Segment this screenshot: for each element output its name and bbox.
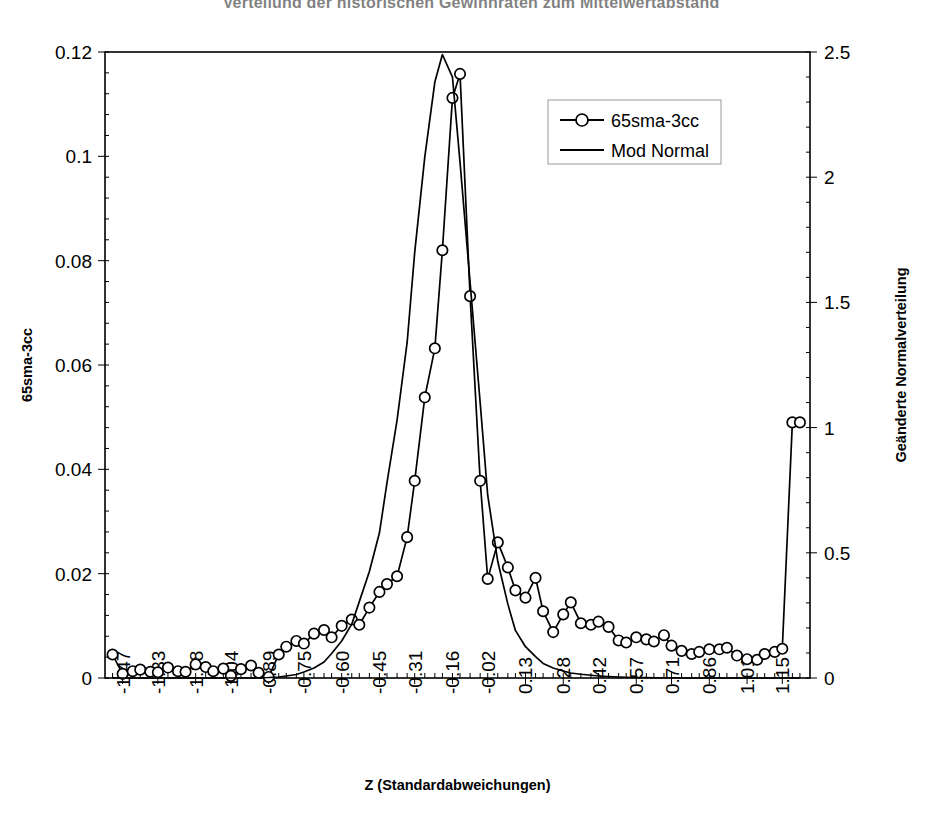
series-marker <box>364 602 374 612</box>
series-marker <box>437 245 447 255</box>
x-tick-label: 0.57 <box>626 657 647 694</box>
series-marker <box>163 662 173 672</box>
series-marker <box>732 650 742 660</box>
series-marker <box>392 571 402 581</box>
y-tick-label: 0.08 <box>55 251 92 272</box>
series-marker <box>135 664 145 674</box>
series-marker <box>666 640 676 650</box>
series-marker <box>483 574 493 584</box>
y-tick-label: 0.06 <box>55 355 92 376</box>
chart-svg: -1.47-1.33-1.18-1.04-0.89-0.75-0.60-0.45… <box>0 0 942 819</box>
x-tick-label: 0.28 <box>553 657 574 694</box>
y-tick-label: 0.1 <box>66 146 92 167</box>
legend-label-0: 65sma-3cc <box>611 111 699 131</box>
legend-label-1: Mod Normal <box>611 141 709 161</box>
x-tick-label: -0.45 <box>369 651 390 694</box>
chart-container: Verteilung der historischen Gewinnraten … <box>0 0 942 819</box>
series-marker <box>153 667 163 677</box>
series-marker <box>475 476 485 486</box>
x-axis-title: Z (Standardabweichungen) <box>364 777 550 793</box>
x-tick-label: 0.71 <box>662 657 683 694</box>
series-marker <box>107 649 117 659</box>
series-marker <box>430 343 440 353</box>
series-marker <box>649 636 659 646</box>
y-tick-label: 0.12 <box>55 42 92 63</box>
series-marker <box>326 632 336 642</box>
series-marker <box>676 646 686 656</box>
y2-tick-label: 2 <box>824 167 835 188</box>
series-marker <box>447 93 457 103</box>
series-marker <box>795 417 805 427</box>
series-marker <box>621 637 631 647</box>
x-tick-label: 1.15 <box>772 657 793 694</box>
y2-tick-label: 1 <box>824 418 835 439</box>
series-marker <box>548 627 558 637</box>
y-tick-label: 0.04 <box>55 459 92 480</box>
y-tick-label: 0.02 <box>55 564 92 585</box>
series-marker <box>382 579 392 589</box>
y2-tick-label: 2.5 <box>824 42 850 63</box>
y2-tick-label: 1.5 <box>824 292 850 313</box>
series-marker <box>253 668 263 678</box>
series-marker <box>759 649 769 659</box>
y-axis-title: 65sma-3cc <box>19 328 35 402</box>
series-marker <box>281 642 291 652</box>
series-marker <box>576 618 586 628</box>
x-tick-label: 0.86 <box>699 657 720 694</box>
series-marker <box>659 630 669 640</box>
y2-tick-label: 0 <box>824 668 835 689</box>
series-marker <box>226 671 236 681</box>
x-tick-label: 0.13 <box>515 657 536 694</box>
series-marker <box>558 609 568 619</box>
x-tick-label: -0.31 <box>405 651 426 694</box>
series-marker <box>503 562 513 572</box>
series-marker <box>410 476 420 486</box>
series-marker <box>336 621 346 631</box>
series-marker <box>455 69 465 79</box>
series-marker <box>510 585 520 595</box>
series-marker <box>520 592 530 602</box>
series-marker <box>208 666 218 676</box>
legend-marker-0 <box>576 114 588 126</box>
x-tick-label: -0.60 <box>332 651 353 694</box>
series-marker <box>354 620 364 630</box>
y2-tick-label: 0.5 <box>824 543 850 564</box>
series-marker <box>566 597 576 607</box>
y-tick-label: 0 <box>81 668 92 689</box>
series-marker <box>694 647 704 657</box>
series-marker <box>704 644 714 654</box>
series-marker <box>236 664 246 674</box>
x-tick-label: -0.16 <box>442 651 463 694</box>
series-marker <box>631 632 641 642</box>
series-marker <box>402 532 412 542</box>
series-marker <box>722 643 732 653</box>
series-marker <box>309 628 319 638</box>
series-marker <box>299 638 309 648</box>
series-marker <box>593 616 603 626</box>
series-marker <box>420 392 430 402</box>
y2-axis-title: Geänderte Normalverteilung <box>893 268 909 463</box>
series-marker <box>530 573 540 583</box>
series-marker <box>538 606 548 616</box>
series-marker <box>742 654 752 664</box>
series-marker <box>180 667 190 677</box>
series-marker <box>603 622 613 632</box>
series-marker <box>190 659 200 669</box>
x-tick-label: -0.02 <box>478 651 499 694</box>
chart-title: Verteilung der historischen Gewinnraten … <box>0 0 942 8</box>
series-marker <box>777 644 787 654</box>
